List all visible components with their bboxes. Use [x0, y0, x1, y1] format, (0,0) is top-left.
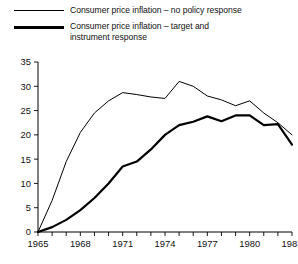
- legend-label-target-and-instrument-response: Consumer price inflation – target and in…: [70, 20, 209, 42]
- series-line-thick: [38, 115, 292, 232]
- chart-plot-area: 0510152025303519651968197119741977198019…: [0, 56, 298, 264]
- chart-axes: [38, 62, 292, 232]
- y-axis-tick-label: 5: [26, 202, 31, 213]
- legend-item-target-and-instrument-response: Consumer price inflation – target and in…: [0, 20, 298, 42]
- chart-page: Consumer price inflation – no policy res…: [0, 0, 298, 264]
- x-axis-tick-label: 1971: [112, 238, 133, 249]
- y-axis-tick-label: 10: [21, 178, 31, 189]
- line-chart: 0510152025303519651968197119741977198019…: [0, 56, 298, 264]
- y-axis-tick-label: 25: [21, 105, 31, 116]
- legend-line-swatch-thin: [14, 10, 64, 11]
- y-axis-tick-label: 35: [21, 56, 31, 67]
- y-axis-tick-label: 30: [21, 81, 31, 92]
- x-axis-tick-label: 1977: [197, 238, 218, 249]
- x-axis-tick-label: 1983: [282, 238, 298, 249]
- x-axis-tick-label: 1974: [155, 238, 176, 249]
- x-axis-tick-label: 1980: [239, 238, 260, 249]
- x-axis-tick-label: 1968: [70, 238, 91, 249]
- legend-line-swatch-thick: [14, 26, 64, 29]
- chart-legend: Consumer price inflation – no policy res…: [0, 4, 298, 47]
- y-axis-tick-label: 20: [21, 129, 31, 140]
- legend-item-no-policy-response: Consumer price inflation – no policy res…: [0, 4, 298, 15]
- x-axis-tick-label: 1965: [28, 238, 49, 249]
- y-axis-tick-label: 0: [26, 226, 31, 237]
- legend-label-no-policy-response: Consumer price inflation – no policy res…: [70, 4, 242, 15]
- y-axis-tick-label: 15: [21, 154, 31, 165]
- series-line-thin: [38, 81, 292, 232]
- legend-swatch-cell: [0, 20, 70, 29]
- legend-swatch-cell: [0, 4, 70, 11]
